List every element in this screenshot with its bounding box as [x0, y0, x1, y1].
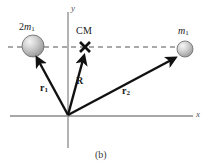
vector-R-label: R — [76, 76, 83, 87]
right-mass-sphere — [177, 41, 193, 57]
y-axis-label: y — [71, 4, 75, 13]
vector-r2-subscript: 2 — [126, 89, 130, 97]
vector-r1-label: r1 — [40, 83, 48, 94]
right-mass-label: m1 — [178, 26, 189, 37]
vector-r2-label: r2 — [122, 86, 130, 97]
x-axis-label: x — [196, 110, 200, 119]
center-of-mass-figure: 2m1 m1 CM r1 R r2 y x (b) — [0, 0, 211, 167]
cm-label: CM — [76, 26, 92, 36]
left-mass-subscript: 1 — [31, 25, 35, 33]
left-mass-sphere — [22, 35, 44, 57]
right-mass-subscript: 1 — [185, 29, 189, 37]
vector-R-symbol: R — [76, 75, 83, 86]
figure-caption: (b) — [95, 150, 107, 160]
left-mass-label: 2m1 — [19, 22, 35, 33]
vector-r1-subscript: 1 — [44, 86, 48, 94]
